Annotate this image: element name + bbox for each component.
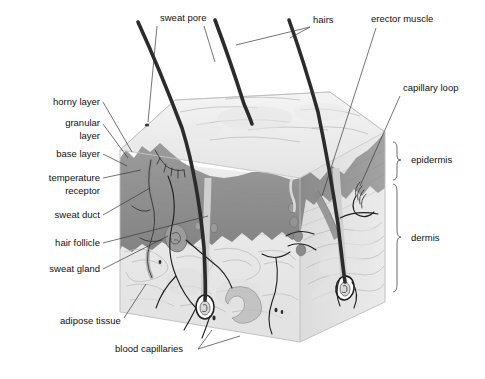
- label-capillary-loop: capillary loop: [403, 82, 458, 93]
- dermis-bracket: [393, 184, 401, 292]
- labels-top: sweat pore hairs erector muscle: [160, 12, 433, 25]
- labels-left: horny layer granular layer base layer te…: [49, 96, 101, 274]
- label-temperature-receptor-line2: receptor: [65, 185, 100, 196]
- labels-bottom: adipose tissue blood capillaries: [60, 315, 183, 354]
- label-sweat-gland: sweat gland: [49, 263, 100, 274]
- epidermis-bracket: [393, 142, 401, 180]
- label-hairs: hairs: [313, 14, 334, 25]
- skin-cross-section-figure: horny layer granular layer base layer te…: [0, 0, 485, 379]
- label-erector-muscle: erector muscle: [371, 13, 433, 24]
- label-dermis: dermis: [411, 232, 440, 243]
- label-adipose-tissue: adipose tissue: [60, 315, 121, 326]
- label-sweat-pore: sweat pore: [160, 12, 206, 23]
- label-hair-follicle: hair follicle: [55, 237, 100, 248]
- label-base-layer: base layer: [56, 148, 100, 159]
- label-epidermis: epidermis: [411, 154, 452, 165]
- label-horny-layer: horny layer: [53, 96, 100, 107]
- label-temperature-receptor-line1: temperature: [49, 172, 100, 183]
- sweat-pore-opening: [145, 124, 149, 127]
- skin-diagram-svg: horny layer granular layer base layer te…: [0, 0, 485, 379]
- label-granular-layer-line2: layer: [79, 130, 100, 141]
- label-blood-capillaries: blood capillaries: [115, 343, 183, 354]
- label-sweat-duct: sweat duct: [55, 209, 101, 220]
- labels-right: capillary loop epidermis dermis: [403, 82, 458, 243]
- label-granular-layer-line1: granular: [65, 117, 100, 128]
